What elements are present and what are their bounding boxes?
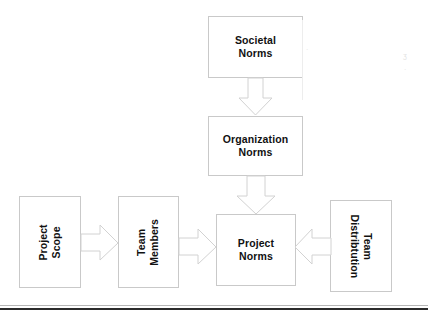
- scan-speck-artifact-right-lower: ·: [404, 66, 406, 73]
- node-team-members[interactable]: Team Members: [118, 196, 179, 288]
- node-organization-norms-label: Organization Norms: [223, 133, 288, 160]
- node-project-norms[interactable]: Project Norms: [216, 214, 296, 286]
- node-team-members-label: Team Members: [135, 219, 162, 266]
- node-project-norms-label: Project Norms: [238, 237, 274, 264]
- scan-edge-artifact: [302, 20, 303, 100]
- arrow-scope-to-members: [81, 224, 119, 262]
- arrow-distribution-to-project: [294, 228, 332, 266]
- bottom-rule: [0, 308, 428, 310]
- arrow-organization-to-project: [236, 176, 276, 215]
- node-organization-norms[interactable]: Organization Norms: [208, 116, 303, 176]
- scan-speck-artifact-right: ʒ: [403, 52, 407, 59]
- arrow-societal-to-organization: [238, 78, 273, 116]
- node-project-scope-label: Project Scope: [37, 224, 64, 260]
- node-societal-norms[interactable]: Societal Norms: [208, 16, 303, 78]
- node-societal-norms-label: Societal Norms: [235, 34, 276, 61]
- bottom-rule-shadow: [0, 305, 428, 306]
- arrow-members-to-project: [179, 228, 217, 266]
- node-project-scope[interactable]: Project Scope: [19, 196, 81, 288]
- node-team-distribution[interactable]: Team Distribtution: [330, 200, 392, 292]
- node-team-distribution-label: Team Distribtution: [348, 214, 375, 278]
- scan-speck-artifact-upper: ·: [306, 46, 308, 53]
- diagram-canvas: Societal Norms Organization Norms Projec…: [0, 0, 428, 316]
